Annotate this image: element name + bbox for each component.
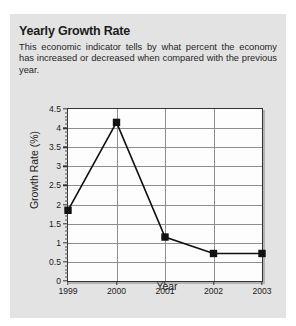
data-point-marker bbox=[161, 233, 168, 240]
data-point-marker bbox=[64, 207, 71, 214]
y-axis-label: Growth Rate (%) bbox=[28, 100, 40, 240]
y-axis-tick-label: 4.5 bbox=[49, 104, 61, 114]
x-axis-tick-label: 1999 bbox=[58, 286, 77, 296]
y-axis-tick-label: 0 bbox=[56, 276, 61, 286]
chart-card-screenshot: Yearly Growth Rate This economic indicat… bbox=[0, 0, 296, 326]
page-title: Yearly Growth Rate bbox=[19, 24, 130, 38]
x-axis-tick bbox=[164, 281, 165, 285]
x-axis-tick bbox=[116, 281, 117, 285]
y-axis-tick-label: 4 bbox=[56, 123, 61, 133]
x-axis-tick bbox=[67, 281, 68, 285]
data-series bbox=[68, 109, 262, 281]
y-axis-tick-label: 3.5 bbox=[49, 142, 61, 152]
data-point-marker bbox=[210, 250, 217, 257]
info-panel: Yearly Growth Rate This economic indicat… bbox=[10, 14, 286, 318]
x-axis-tick bbox=[261, 281, 262, 285]
y-axis-tick-label: 2 bbox=[56, 200, 61, 210]
plot-area: 00.511.522.533.544.519992000200120022003 bbox=[67, 108, 263, 282]
y-axis-tick-label: 1.5 bbox=[49, 219, 61, 229]
x-axis-tick-label: 2002 bbox=[204, 286, 223, 296]
x-axis-tick bbox=[213, 281, 214, 285]
y-axis-tick-label: 0.5 bbox=[49, 257, 61, 267]
x-axis-tick-label: 2003 bbox=[252, 286, 271, 296]
y-axis-tick-label: 2.5 bbox=[49, 180, 61, 190]
data-point-marker bbox=[258, 250, 265, 257]
chart-container: Growth Rate (%) Year 00.511.522.533.544.… bbox=[10, 80, 286, 312]
x-axis-tick-label: 2000 bbox=[107, 286, 126, 296]
y-axis-tick-label: 3 bbox=[56, 161, 61, 171]
data-point-marker bbox=[113, 119, 120, 126]
description-text: This economic indicator tells by what pe… bbox=[19, 42, 277, 76]
y-axis-tick-label: 1 bbox=[56, 238, 61, 248]
x-axis-tick-label: 2001 bbox=[155, 286, 174, 296]
